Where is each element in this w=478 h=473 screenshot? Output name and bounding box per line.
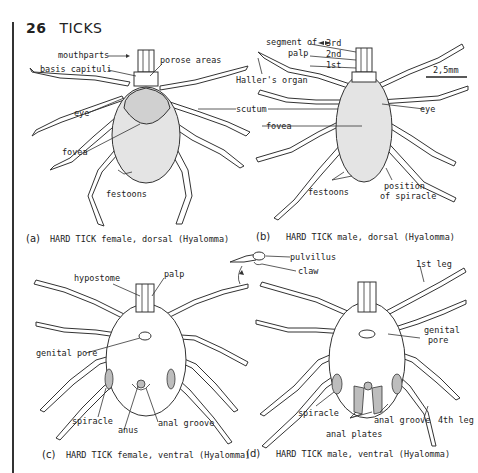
label-genital-pore: genital pore: [36, 348, 97, 358]
scale-bar-label: 2,5mm: [433, 65, 459, 75]
panel-d-letter: (d): [246, 448, 260, 459]
label-hallers-organ: Haller's organ: [236, 75, 308, 85]
label-segment-of: segment of: [266, 37, 317, 47]
label-position: position: [384, 181, 425, 191]
panel-c-letter: (c): [42, 449, 55, 460]
panel-c-caption: HARD TICK female, ventral (Hyalomma): [66, 450, 250, 460]
label-anal-plates: anal plates: [326, 429, 382, 439]
label-of-spiracle: of spiracle: [380, 191, 436, 201]
panel-a-letter: (a): [26, 233, 40, 244]
label-palp-c: palp: [164, 269, 184, 279]
label-mouthparts: mouthparts: [58, 50, 109, 60]
panel-c-female-ventral: hypostome palp genital pore spiracle anu…: [34, 269, 250, 460]
panel-d-male-ventral: pulvillus claw 1st leg genital pore spir…: [230, 252, 474, 459]
label-claw: claw: [298, 266, 319, 276]
panel-d-caption: HARD TICK male, ventral (Hyalomma): [276, 449, 450, 459]
label-palp: palp: [288, 48, 308, 58]
label-porose-areas: porose areas: [160, 55, 221, 65]
label-pulvillus: pulvillus: [290, 252, 336, 262]
label-festoons: festoons: [106, 189, 147, 199]
label-festoons-b: festoons: [308, 187, 349, 197]
label-fovea-b: fovea: [266, 121, 292, 131]
label-genital: genital: [424, 325, 460, 335]
label-scutum: scutum: [236, 104, 267, 114]
panel-a-caption: HARD TICK female, dorsal (Hyalomma): [50, 234, 229, 244]
panel-a-female-dorsal: mouthparts porose areas basis capituli e…: [26, 50, 250, 244]
label-palp-2nd: 2nd: [326, 49, 341, 59]
panel-b-letter: (b): [256, 231, 270, 242]
label-eye-b: eye: [420, 104, 435, 114]
label-1st-leg: 1st leg: [416, 259, 452, 269]
label-pore: pore: [428, 335, 448, 345]
label-anus: anus: [118, 425, 138, 435]
label-basis-capituli: basis capituli: [40, 64, 112, 74]
label-spiracle-d: spiracle: [298, 408, 339, 418]
tick-anatomy-figure: mouthparts porose areas basis capituli e…: [0, 0, 478, 473]
label-anal-groove-d: anal groove: [374, 415, 430, 425]
label-eye: eye: [74, 108, 89, 118]
label-hypostome: hypostome: [74, 273, 120, 283]
label-palp-3rd: 3rd: [326, 38, 341, 48]
label-anal-groove-c: anal groove: [158, 418, 214, 428]
label-fovea: fovea: [62, 147, 88, 157]
label-4th-leg: 4th leg: [438, 415, 474, 425]
label-palp-1st: 1st: [326, 60, 341, 70]
label-spiracle-c: spiracle: [72, 416, 113, 426]
panel-b-caption: HARD TICK male, dorsal (Hyalomma): [286, 232, 455, 242]
panel-b-male-dorsal: 2,5mm segment of palp 3rd 2nd 1st Haller…: [198, 37, 468, 242]
